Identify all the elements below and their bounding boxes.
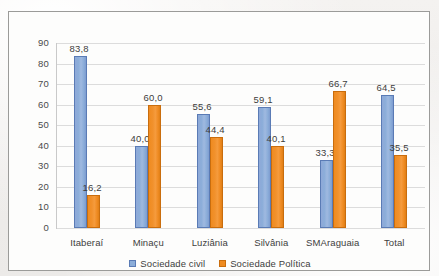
- y-axis-tick-20: 20: [23, 182, 49, 192]
- gridline-0: [56, 228, 425, 229]
- data-label-politica-4: 66,7: [329, 78, 348, 89]
- gridline-40: [56, 146, 425, 147]
- legend-item-sociedade-civil[interactable]: Sociedade civil: [129, 258, 205, 269]
- legend-swatch-sociedade-politica: [219, 260, 226, 267]
- bar-politica-1[interactable]: [148, 105, 161, 228]
- legend-label-sociedade-politica: Sociedade Política: [230, 258, 311, 269]
- gridline-50: [56, 125, 425, 126]
- gridline-20: [56, 187, 425, 188]
- y-axis-tick-50: 50: [23, 120, 49, 130]
- gridline-70: [56, 84, 425, 85]
- y-axis-tick-90: 90: [23, 38, 49, 48]
- data-label-civil-0: 83,8: [70, 43, 89, 54]
- gridline-60: [56, 105, 425, 106]
- bar-politica-2[interactable]: [210, 137, 223, 228]
- y-axis-line: [56, 43, 57, 229]
- y-axis-tick-40: 40: [23, 141, 49, 151]
- legend-item-sociedade-politica[interactable]: Sociedade Política: [219, 258, 311, 269]
- data-label-civil-3: 59,1: [254, 94, 273, 105]
- bar-politica-5[interactable]: [394, 155, 407, 228]
- data-label-civil-2: 55,6: [193, 101, 212, 112]
- gridline-30: [56, 166, 425, 167]
- y-axis-tick-80: 80: [23, 59, 49, 69]
- x-axis-category-label-5: Total: [354, 237, 434, 248]
- bar-civil-0[interactable]: [74, 56, 87, 228]
- bar-politica-4[interactable]: [333, 91, 346, 228]
- grouped-bar-chart: 010203040506070809083,816,2Itaberaí40,06…: [9, 12, 429, 270]
- gridline-10: [56, 207, 425, 208]
- y-axis-tick-30: 30: [23, 161, 49, 171]
- y-axis-tick-60: 60: [23, 100, 49, 110]
- data-label-civil-1: 40,0: [131, 133, 150, 144]
- y-axis-tick-10: 10: [23, 202, 49, 212]
- bar-civil-5[interactable]: [381, 95, 394, 228]
- data-label-politica-5: 35,5: [390, 142, 409, 153]
- bar-civil-4[interactable]: [320, 160, 333, 228]
- data-label-politica-2: 44,4: [206, 124, 225, 135]
- data-label-politica-0: 16,2: [83, 182, 102, 193]
- bar-civil-3[interactable]: [258, 107, 271, 228]
- data-label-politica-3: 40,1: [267, 133, 286, 144]
- y-axis-tick-70: 70: [23, 79, 49, 89]
- bar-civil-1[interactable]: [135, 146, 148, 228]
- legend-swatch-sociedade-civil: [129, 260, 136, 267]
- data-label-civil-4: 33,3: [316, 147, 335, 158]
- data-label-civil-5: 64,5: [377, 82, 396, 93]
- chart-frame: 010203040506070809083,816,2Itaberaí40,06…: [8, 11, 430, 271]
- bar-politica-0[interactable]: [87, 195, 100, 228]
- data-label-politica-1: 60,0: [144, 92, 163, 103]
- legend-label-sociedade-civil: Sociedade civil: [140, 258, 205, 269]
- chart-legend: Sociedade civil Sociedade Política: [9, 258, 431, 269]
- gridline-90: [56, 43, 425, 44]
- bar-politica-3[interactable]: [271, 146, 284, 228]
- y-axis-tick-0: 0: [23, 223, 49, 233]
- gridline-80: [56, 64, 425, 65]
